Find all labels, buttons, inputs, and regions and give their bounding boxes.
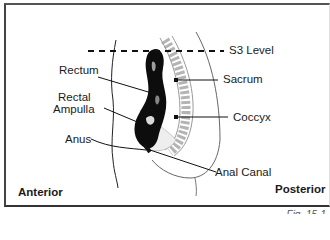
label-rectal-ampulla-line2: Ampulla: [53, 103, 95, 116]
label-rectum: Rectum: [59, 64, 99, 77]
label-anal-canal: Anal Canal: [215, 166, 271, 179]
rectum-leader: [98, 77, 155, 94]
anal-canal-leader: [150, 150, 216, 172]
label-coccyx: Coccyx: [233, 111, 271, 124]
label-sacrum: Sacrum: [223, 73, 263, 86]
label-s3-level: S3 Level: [229, 44, 274, 57]
label-anus: Anus: [65, 133, 91, 146]
ampulla-leader: [104, 108, 142, 124]
label-posterior: Posterior: [275, 183, 326, 196]
label-anterior: Anterior: [18, 186, 63, 199]
